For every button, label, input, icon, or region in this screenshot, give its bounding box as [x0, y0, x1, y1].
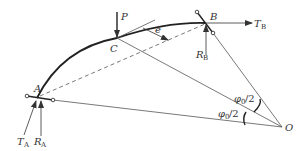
- svg-text:A: A: [23, 141, 30, 149]
- svg-text:B: B: [203, 54, 208, 62]
- label-e: e: [155, 24, 161, 35]
- svg-text:φ: φ: [218, 108, 225, 119]
- svg-text:/2: /2: [245, 93, 255, 104]
- svg-text:A: A: [40, 141, 47, 149]
- svg-text:φ: φ: [234, 93, 241, 104]
- radius-line-A: [53, 100, 282, 127]
- svg-text:B: B: [261, 23, 266, 31]
- label-phi-lower: φ 0 /2: [218, 108, 239, 121]
- label-RA: R A: [33, 136, 47, 149]
- label-C: C: [110, 43, 118, 54]
- pin-B-upper: [195, 10, 199, 14]
- arch-diagram: e P C B T B R B A T A R A φ 0 /2 φ 0: [0, 0, 305, 151]
- label-A: A: [33, 83, 41, 94]
- label-P: P: [120, 11, 128, 22]
- force-TA-arrow: [24, 101, 36, 135]
- pin-B-lower: [211, 31, 215, 35]
- svg-text:/2: /2: [229, 108, 239, 119]
- angle-arc-upper: [254, 99, 260, 112]
- dashed-chord: [40, 24, 205, 96]
- pin-A-left: [25, 94, 29, 98]
- label-phi-upper: φ 0 /2: [234, 93, 255, 106]
- label-B: B: [209, 11, 217, 22]
- pin-A-right: [51, 98, 55, 102]
- label-TB: T B: [254, 18, 266, 31]
- support-bar-A: [27, 96, 53, 100]
- label-TA: T A: [17, 136, 30, 149]
- label-O: O: [285, 122, 293, 133]
